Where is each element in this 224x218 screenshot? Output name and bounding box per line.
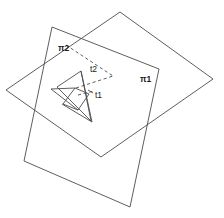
label-triangle-t1: t1 [95, 90, 102, 100]
figure-canvas: π2 π1 t2 t1 [0, 0, 224, 218]
triangle-t2-outline [57, 71, 91, 121]
label-plane-pi1: π1 [140, 74, 152, 84]
t2-hidden-edge [76, 76, 113, 88]
label-plane-pi2: π2 [58, 43, 70, 53]
triangle-t1-left-wing [51, 88, 78, 110]
label-triangle-t2: t2 [90, 64, 97, 74]
plane-pi1-outline [6, 12, 213, 157]
geometry-diagram: π2 π1 t2 t1 [0, 0, 224, 218]
